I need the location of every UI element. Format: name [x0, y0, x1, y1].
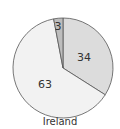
chart-caption: Ireland [0, 116, 120, 127]
slice-label-3: 3 [55, 20, 62, 33]
slice-label-34: 34 [77, 51, 91, 64]
pie-slices [13, 18, 113, 118]
slice-label-63: 63 [38, 78, 52, 91]
pie-chart: 34 63 3 [0, 0, 120, 129]
